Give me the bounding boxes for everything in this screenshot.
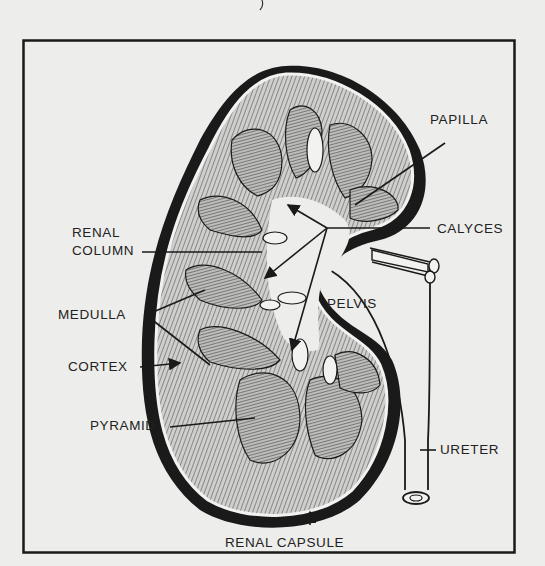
- label-pyramid: PYRAMID: [90, 418, 156, 434]
- label-calyces: CALYCES: [437, 221, 503, 237]
- label-ureter: URETER: [440, 442, 499, 458]
- label-pelvis: PELVIS: [327, 296, 377, 312]
- renal-vessels: [370, 248, 439, 283]
- label-renal-capsule: RENAL CAPSULE: [225, 535, 344, 551]
- kidney-illustration: [0, 0, 545, 566]
- label-medulla: MEDULLA: [58, 307, 126, 323]
- label-papilla: PAPILLA: [430, 112, 488, 128]
- kidney-diagram: PAPILLA CALYCES RENAL COLUMN MEDULLA COR…: [0, 0, 545, 566]
- label-renal-column-line1: RENAL: [72, 225, 120, 241]
- label-cortex: CORTEX: [68, 359, 128, 375]
- page-artifact: [260, 0, 263, 10]
- label-renal-column-line2: COLUMN: [72, 243, 134, 259]
